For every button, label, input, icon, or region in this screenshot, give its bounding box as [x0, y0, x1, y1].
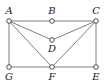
node-label-e: E [91, 71, 100, 82]
node-g-icon [7, 65, 12, 70]
edge-a-d [9, 21, 52, 40]
node-label-d: D [47, 43, 56, 54]
node-label-c: C [92, 5, 100, 16]
edge-d-c [52, 21, 96, 40]
edge-a-f [9, 21, 52, 67]
node-label-f: F [48, 71, 57, 82]
node-label-b: B [47, 5, 55, 16]
node-e-icon [94, 65, 99, 70]
graph-diagram: ABCDGFE [0, 0, 104, 84]
edge-f-c [52, 21, 96, 67]
node-f-icon [50, 65, 55, 70]
node-label-g: G [5, 71, 13, 82]
node-c-icon [94, 19, 99, 24]
node-d-icon [50, 38, 55, 43]
node-b-icon [50, 19, 55, 24]
labels-layer: ABCDGFE [4, 5, 100, 82]
node-a-icon [7, 19, 12, 24]
node-label-a: A [4, 5, 12, 16]
